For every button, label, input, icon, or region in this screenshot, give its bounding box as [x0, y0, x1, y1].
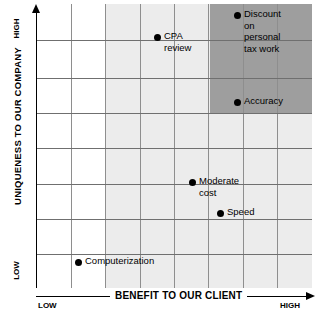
- gridline-horizontal-2: [37, 113, 312, 114]
- gridline-vertical-4: [208, 4, 209, 288]
- gridline-horizontal-5: [37, 219, 312, 220]
- quadrant-chart: Discount on personal tax workCPA reviewA…: [0, 0, 320, 319]
- gridline-horizontal-6: [37, 254, 312, 255]
- gridline-vertical-1: [105, 4, 106, 288]
- data-point-marker: [75, 259, 82, 266]
- x-axis-high-label: HIGH: [280, 301, 300, 310]
- x-axis-title: BENEFIT TO OUR CLIENT: [110, 289, 247, 302]
- plot-area: Discount on personal tax workCPA reviewA…: [37, 4, 312, 288]
- y-axis-low-label: LOW: [12, 249, 21, 293]
- gridline-horizontal-4: [37, 184, 312, 185]
- y-axis-high-label: HIGH: [12, 7, 21, 51]
- data-point-label: Speed: [227, 206, 254, 218]
- y-axis-title: UNIQUENESS TO OUR COMPANY: [12, 46, 24, 206]
- data-point-marker: [234, 12, 241, 19]
- data-point-label: Computerization: [85, 255, 154, 267]
- data-point-marker: [154, 34, 161, 41]
- gridline-vertical-0: [71, 4, 72, 288]
- data-point-label: Moderate cost: [199, 175, 239, 198]
- y-axis-arrow-icon: [32, 4, 40, 13]
- data-point-label: CPA review: [164, 30, 191, 53]
- x-axis-arrow-icon: [306, 292, 315, 300]
- x-axis-low-label: LOW: [38, 301, 57, 310]
- data-point-marker: [217, 210, 224, 217]
- data-point-marker: [234, 99, 241, 106]
- gridline-horizontal-3: [37, 148, 312, 149]
- data-point-marker: [189, 179, 196, 186]
- gridline-vertical-2: [140, 4, 141, 288]
- gridline-horizontal-1: [37, 78, 312, 79]
- data-point-label: Discount on personal tax work: [244, 8, 281, 54]
- y-axis-line: [36, 12, 37, 288]
- data-point-label: Accuracy: [244, 95, 283, 107]
